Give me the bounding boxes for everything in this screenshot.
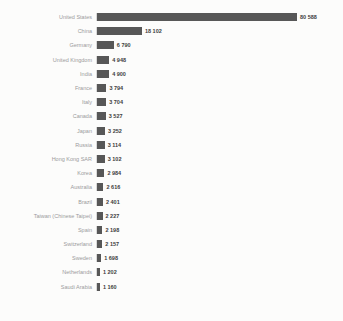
bar-track: 1 698 bbox=[96, 254, 343, 262]
bar bbox=[97, 13, 297, 21]
bar-row: United States80 588 bbox=[0, 10, 343, 24]
value-label: 3 114 bbox=[108, 142, 121, 148]
bar bbox=[97, 198, 103, 206]
category-label: Korea bbox=[0, 170, 96, 176]
bar bbox=[97, 41, 114, 49]
bar-row: Canada3 527 bbox=[0, 109, 343, 123]
value-label: 6 790 bbox=[117, 42, 131, 48]
category-label: Brazil bbox=[0, 199, 96, 205]
value-label: 2 227 bbox=[106, 213, 120, 219]
value-label: 3 794 bbox=[109, 85, 123, 91]
category-label: United States bbox=[0, 14, 96, 20]
horizontal-bar-chart: United States80 588China18 102Germany6 7… bbox=[0, 10, 343, 294]
value-label: 3 102 bbox=[108, 156, 122, 162]
value-label: 2 616 bbox=[106, 184, 120, 190]
value-label: 18 102 bbox=[145, 28, 162, 34]
category-label: Germany bbox=[0, 42, 96, 48]
category-label: United Kingdom bbox=[0, 57, 96, 63]
category-label: Switzerland bbox=[0, 241, 96, 247]
bar bbox=[97, 155, 105, 163]
value-label: 4 900 bbox=[112, 71, 126, 77]
category-label: Russia bbox=[0, 142, 96, 148]
category-label: France bbox=[0, 85, 96, 91]
bar-row: Spain2 198 bbox=[0, 223, 343, 237]
bar bbox=[97, 240, 102, 248]
bar-track: 3 527 bbox=[96, 112, 343, 120]
bar bbox=[97, 226, 102, 234]
bar-track: 6 790 bbox=[96, 41, 343, 49]
bar bbox=[97, 98, 106, 106]
bar-row: Taiwan (Chinese Taipei)2 227 bbox=[0, 209, 343, 223]
bar bbox=[97, 183, 103, 191]
bar-track: 4 900 bbox=[96, 70, 343, 78]
bar bbox=[97, 56, 109, 64]
bar-track: 2 227 bbox=[96, 212, 343, 220]
bar-row: Australia2 616 bbox=[0, 180, 343, 194]
category-label: Spain bbox=[0, 227, 96, 233]
bar-track: 80 588 bbox=[96, 13, 343, 21]
category-label: China bbox=[0, 28, 96, 34]
bar-track: 2 616 bbox=[96, 183, 343, 191]
bar-track: 3 102 bbox=[96, 155, 343, 163]
bar-row: Brazil2 401 bbox=[0, 194, 343, 208]
bar-track: 3 704 bbox=[96, 98, 343, 106]
value-label: 2 157 bbox=[105, 241, 119, 247]
bar-track: 1 160 bbox=[96, 283, 343, 291]
bar bbox=[97, 169, 104, 177]
bar bbox=[97, 283, 100, 291]
bar-row: France3 794 bbox=[0, 81, 343, 95]
value-label: 3 704 bbox=[109, 99, 123, 105]
bar bbox=[97, 127, 105, 135]
category-label: Sweden bbox=[0, 255, 96, 261]
category-label: India bbox=[0, 71, 96, 77]
bar bbox=[97, 141, 105, 149]
bar bbox=[97, 112, 106, 120]
category-label: Australia bbox=[0, 184, 96, 190]
category-label: Japan bbox=[0, 128, 96, 134]
bar-row: Hong Kong SAR3 102 bbox=[0, 152, 343, 166]
value-label: 2 401 bbox=[106, 199, 120, 205]
value-label: 80 588 bbox=[300, 14, 317, 20]
bar bbox=[97, 70, 109, 78]
screenshot-canvas: United States80 588China18 102Germany6 7… bbox=[0, 0, 343, 321]
value-label: 3 252 bbox=[108, 128, 122, 134]
bar-track: 4 948 bbox=[96, 56, 343, 64]
bar-row: Russia3 114 bbox=[0, 138, 343, 152]
bar-row: Sweden1 698 bbox=[0, 251, 343, 265]
bar-track: 1 202 bbox=[96, 268, 343, 276]
bar bbox=[97, 212, 103, 220]
bar bbox=[97, 84, 106, 92]
bar-row: Korea2 984 bbox=[0, 166, 343, 180]
category-label: Saudi Arabia bbox=[0, 284, 96, 290]
bar-row: India4 900 bbox=[0, 67, 343, 81]
value-label: 4 948 bbox=[112, 57, 126, 63]
bar bbox=[97, 27, 142, 35]
bar-row: United Kingdom4 948 bbox=[0, 53, 343, 67]
value-label: 1 698 bbox=[104, 255, 118, 261]
bar-track: 3 252 bbox=[96, 127, 343, 135]
bar-track: 3 794 bbox=[96, 84, 343, 92]
category-label: Italy bbox=[0, 99, 96, 105]
category-label: Netherlands bbox=[0, 269, 96, 275]
bar-row: Italy3 704 bbox=[0, 95, 343, 109]
category-label: Hong Kong SAR bbox=[0, 156, 96, 162]
bar-row: Germany6 790 bbox=[0, 38, 343, 52]
bar-track: 18 102 bbox=[96, 27, 343, 35]
bar-row: China18 102 bbox=[0, 24, 343, 38]
bar-track: 3 114 bbox=[96, 141, 343, 149]
value-label: 2 984 bbox=[107, 170, 121, 176]
bar-track: 2 157 bbox=[96, 240, 343, 248]
value-label: 2 198 bbox=[105, 227, 119, 233]
bar-row: Netherlands1 202 bbox=[0, 265, 343, 279]
bar-track: 2 401 bbox=[96, 198, 343, 206]
bar-row: Japan3 252 bbox=[0, 124, 343, 138]
bar-track: 2 984 bbox=[96, 169, 343, 177]
value-label: 3 527 bbox=[109, 113, 123, 119]
category-label: Taiwan (Chinese Taipei) bbox=[0, 213, 96, 219]
bar-row: Saudi Arabia1 160 bbox=[0, 280, 343, 294]
value-label: 1 202 bbox=[103, 269, 117, 275]
bar-track: 2 198 bbox=[96, 226, 343, 234]
value-label: 1 160 bbox=[103, 284, 117, 290]
bar-row: Switzerland2 157 bbox=[0, 237, 343, 251]
category-label: Canada bbox=[0, 113, 96, 119]
